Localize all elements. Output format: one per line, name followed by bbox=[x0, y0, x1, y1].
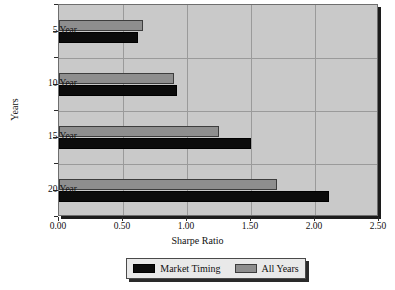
x-tick-label: 1.50 bbox=[230, 221, 270, 231]
x-axis-title: Sharpe Ratio bbox=[0, 235, 395, 246]
y-tick-mark-minor bbox=[54, 163, 58, 164]
bar-market-timing-15-year bbox=[59, 138, 251, 149]
y-tick-label: 5 Year bbox=[17, 25, 77, 35]
y-axis-title: Years bbox=[9, 80, 20, 140]
gridline-vertical bbox=[315, 5, 316, 215]
chart-legend: Market Timing All Years bbox=[126, 258, 306, 279]
y-tick-label: 20 Year bbox=[17, 184, 77, 194]
bar-market-timing-20-year bbox=[59, 191, 329, 202]
x-tick-label: 0.00 bbox=[38, 221, 78, 231]
y-tick-mark-minor bbox=[54, 110, 58, 111]
y-tick-label: 10 Year bbox=[17, 78, 77, 88]
legend-swatch-market-timing bbox=[133, 264, 155, 273]
x-tick-label: 2.00 bbox=[294, 221, 334, 231]
y-tick-mark-minor bbox=[54, 57, 58, 58]
legend-swatch-all-years bbox=[235, 264, 257, 273]
x-tick-label: 0.50 bbox=[102, 221, 142, 231]
y-tick-mark-minor bbox=[54, 4, 58, 5]
gridline-horizontal bbox=[59, 164, 377, 165]
gridline-horizontal bbox=[59, 111, 377, 112]
legend-label-all-years: All Years bbox=[262, 263, 299, 274]
plot-area bbox=[58, 4, 378, 216]
y-tick-label: 15 Year bbox=[17, 131, 77, 141]
legend-item-all-years: All Years bbox=[235, 263, 299, 274]
x-tick-label: 2.50 bbox=[358, 221, 395, 231]
y-tick-mark-minor bbox=[54, 216, 58, 217]
x-tick-label: 1.00 bbox=[166, 221, 206, 231]
gridline-horizontal bbox=[59, 58, 377, 59]
legend-label-market-timing: Market Timing bbox=[160, 263, 220, 274]
bar-all-years-15-year bbox=[59, 126, 219, 137]
legend-item-market-timing: Market Timing bbox=[133, 263, 220, 274]
sharpe-ratio-bar-chart: 0.000.501.001.502.002.50 5 Year10 Year15… bbox=[0, 0, 395, 290]
bar-all-years-20-year bbox=[59, 179, 277, 190]
